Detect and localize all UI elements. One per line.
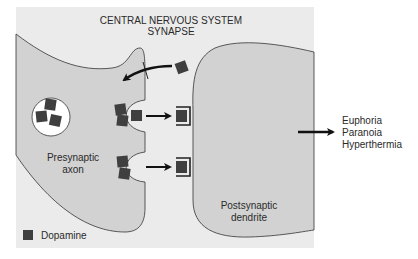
diagram-subtitle: SYNAPSE xyxy=(147,26,195,37)
dopamine-molecule xyxy=(118,167,130,179)
legend-label: Dopamine xyxy=(41,230,87,241)
dopamine-legend-icon xyxy=(23,230,33,240)
dopamine-molecule xyxy=(44,98,56,110)
dopamine-molecule xyxy=(49,114,62,127)
dopamine-molecule xyxy=(36,110,48,122)
diagram-title: CENTRAL NERVOUS SYSTEM xyxy=(100,15,242,26)
presynaptic-label: axon xyxy=(62,164,84,175)
presynaptic-label: Presynaptic xyxy=(47,152,99,163)
synapse-diagram: CENTRAL NERVOUS SYSTEM SYNAPSE Presynapt… xyxy=(0,0,418,259)
dopamine-molecule xyxy=(176,161,187,173)
dopamine-molecule xyxy=(176,110,187,122)
dopamine-molecule xyxy=(114,103,126,115)
postsynaptic-label: dendrite xyxy=(231,212,268,223)
dopamine-molecule xyxy=(117,155,129,167)
effect-item: Hyperthermia xyxy=(342,139,402,150)
postsynaptic-label: Postsynaptic xyxy=(221,200,278,211)
effect-item: Euphoria xyxy=(342,115,382,126)
dopamine-molecule xyxy=(116,115,128,127)
dopamine-molecule xyxy=(131,110,142,121)
effect-item: Paranoia xyxy=(342,127,382,138)
